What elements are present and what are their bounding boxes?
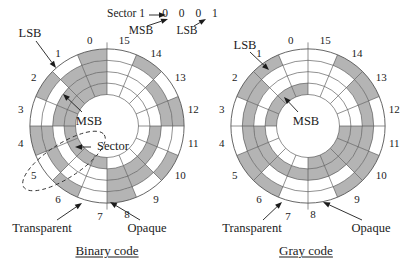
gray-sector-number-13: 13 [376, 72, 387, 83]
binary-transparent-arrow [57, 203, 82, 220]
annotation-code-bits: 0 0 0 1 [162, 8, 222, 20]
gray-caption: Gray code [279, 244, 333, 257]
binary-sector-number-6: 6 [55, 194, 61, 205]
gray-sector-number-12: 12 [389, 103, 400, 114]
binary-sector-number-12: 12 [188, 103, 199, 114]
binary-lsb-label: LSB [19, 27, 42, 40]
gray-sector-number-11: 11 [389, 138, 400, 149]
binary-lsb-arrow [36, 41, 56, 68]
binary-sector-number-14: 14 [150, 47, 161, 58]
binary-sector-number-9: 9 [153, 194, 159, 205]
binary-sector-number-0: 0 [87, 34, 93, 45]
gray-lsb-label: LSB [234, 39, 257, 52]
gray-opaque-arrow [323, 202, 362, 220]
gray-sector-number-2: 2 [232, 72, 238, 83]
binary-sector-number-1: 1 [55, 47, 61, 58]
binary-sector-number-3: 3 [18, 103, 24, 114]
binary-msb-label: MSB [76, 115, 102, 128]
binary-sector-number-4: 4 [18, 138, 24, 149]
gray-sector-number-5: 5 [232, 169, 238, 180]
gray-sector-number-4: 4 [219, 138, 225, 149]
binary-sector-number-13: 13 [175, 72, 186, 83]
gray-sector-number-1: 1 [256, 47, 262, 58]
gray-sector-number-10: 10 [376, 169, 387, 180]
gray-sector-number-14: 14 [351, 47, 362, 58]
binary-sector-number-11: 11 [188, 138, 199, 149]
binary-transparent-label: Transparent [12, 222, 71, 235]
gray-sector-number-0: 0 [288, 34, 294, 45]
gray-transparent-label: Transparent [222, 222, 281, 235]
binary-sector-number-2: 2 [31, 72, 37, 83]
gray-sector-number-6: 6 [256, 194, 262, 205]
annotation-sector-label: Sector 1 [107, 8, 145, 20]
gray-opaque-label: Opaque [352, 222, 391, 235]
binary-sector-number-5: 5 [31, 169, 37, 180]
binary-caption: Binary code [75, 244, 138, 257]
binary-sector-number-10: 10 [175, 169, 186, 180]
binary-sector-number-7: 7 [97, 211, 103, 222]
annotation-msb-label: MSB [129, 25, 153, 37]
gray-transparent-arrow [263, 202, 282, 220]
gray-sector-number-8: 8 [310, 209, 316, 220]
encoder-disks-figure: Sector 1 0 0 0 1 MSB LSB LSB MSB Sector … [0, 0, 401, 263]
gray-sector-number-7: 7 [285, 211, 291, 222]
binary-sector-number-15: 15 [119, 34, 130, 45]
binary-opaque-label: Opaque [128, 222, 167, 235]
annotation-lsb-label: LSB [176, 25, 197, 37]
gray-sector-number-3: 3 [219, 103, 225, 114]
gray-msb-label: MSB [293, 115, 319, 128]
binary-sector-label: Sector [97, 140, 129, 153]
binary-sector-number-8: 8 [124, 209, 130, 220]
gray-sector-number-9: 9 [354, 194, 360, 205]
gray-sector-number-15: 15 [320, 34, 331, 45]
